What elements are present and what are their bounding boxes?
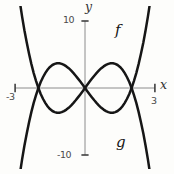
function-graph-figure: y 10 f x 3 -3 -10 g <box>0 0 174 174</box>
curve-label-g: g <box>116 135 126 150</box>
plot-svg <box>0 0 174 174</box>
x-axis-label: x <box>160 79 167 92</box>
y-tick-label-10: 10 <box>63 15 74 25</box>
y-axis-label: y <box>85 1 92 14</box>
y-tick-label-neg10: -10 <box>57 150 71 160</box>
curve-label-f: f <box>115 23 121 38</box>
x-tick-label-3: 3 <box>151 96 157 106</box>
x-tick-label-neg3: -3 <box>6 92 14 102</box>
